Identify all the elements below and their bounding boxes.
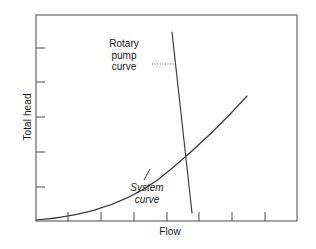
system-label-line-2: curve: [120, 194, 174, 206]
rotary-label-line-3: curve: [96, 61, 152, 73]
system-curve-label: System curve: [120, 182, 174, 205]
x-axis-title: Flow: [140, 226, 200, 237]
chart-canvas: [0, 0, 316, 249]
rotary-pump-curve-label: Rotary pump curve: [96, 38, 152, 73]
system-label-line-1: System: [120, 182, 174, 194]
y-axis-title: Total head: [22, 72, 36, 162]
rotary-label-line-1: Rotary: [96, 38, 152, 50]
rotary-label-line-2: pump: [96, 50, 152, 62]
chart-figure: Total head Flow Rotary pump curve System…: [0, 0, 316, 249]
